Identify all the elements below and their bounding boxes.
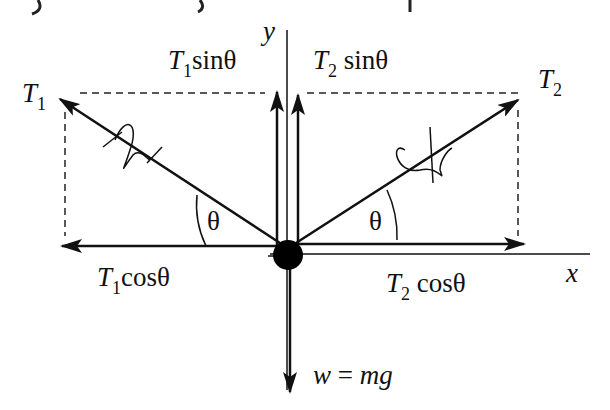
weight-label: w = mg [313, 362, 393, 389]
force-diagram [0, 0, 610, 410]
mass-point [273, 240, 303, 270]
angle-arc-right [387, 190, 397, 240]
top-caption-fragment [32, 0, 410, 14]
x-axis-label: x [566, 260, 578, 287]
angle-arc-left [197, 195, 206, 246]
t1-vector-arrow [60, 99, 280, 243]
angle-theta-right: θ [369, 208, 382, 235]
t1-label: T1 [22, 80, 46, 107]
t1-sin-label: T1sinθ [168, 47, 236, 74]
y-axis-label: y [263, 18, 275, 45]
t2-sin-label: T2 sinθ [313, 47, 388, 74]
dashed-construction-lines [65, 93, 518, 236]
angle-theta-left: θ [207, 208, 220, 235]
rope-squiggle-right [397, 127, 452, 183]
t2-cos-label: T2 cosθ [386, 270, 466, 297]
t2-vector-arrow [296, 100, 518, 243]
t1-cos-label: T1cosθ [97, 264, 170, 291]
t2-label: T2 [538, 66, 562, 93]
